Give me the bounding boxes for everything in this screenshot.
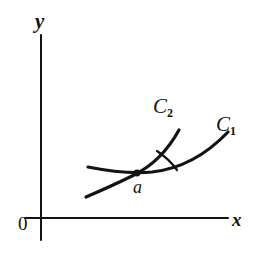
curves-group — [86, 130, 228, 197]
origin-label: 0 — [18, 214, 28, 233]
figure-canvas: y x 0 a C2 C1 — [0, 0, 266, 261]
curve-c1-label-subscript: 1 — [230, 124, 236, 138]
curve-c1-label-base: C — [216, 112, 230, 136]
x-axis-label: x — [232, 210, 242, 229]
y-axis-label: y — [35, 11, 44, 32]
intersection-point-label: a — [133, 178, 142, 196]
intersection-point-dot — [134, 170, 141, 177]
angle-arc-path — [157, 151, 177, 170]
curve-c2-label: C2 — [153, 96, 173, 119]
axes-group — [25, 35, 228, 240]
curve-c2-label-subscript: 2 — [167, 106, 173, 120]
curve-c1-label: C1 — [216, 114, 236, 137]
curve-c2-label-base: C — [153, 94, 167, 118]
